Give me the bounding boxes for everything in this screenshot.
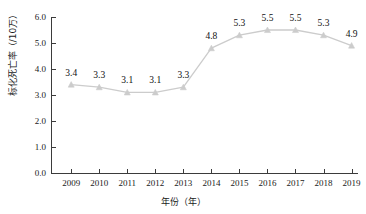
x-tick-mark xyxy=(295,169,296,174)
x-tick-mark xyxy=(352,169,353,174)
y-tick-mark xyxy=(52,121,56,122)
y-tick-label: 1.0 xyxy=(20,143,46,152)
x-axis-title: 年份（年） xyxy=(0,195,366,208)
data-point-marker xyxy=(349,43,355,49)
y-tick-label: 3.0 xyxy=(20,91,46,100)
y-tick-mark xyxy=(52,147,56,148)
y-tick-label: 5.0 xyxy=(20,39,46,48)
x-tick-mark xyxy=(99,169,100,174)
x-tick-mark xyxy=(155,169,156,174)
x-tick-label: 2019 xyxy=(332,178,366,188)
data-point-value-label: 3.3 xyxy=(163,70,203,80)
data-point-marker xyxy=(236,32,242,38)
data-point-marker xyxy=(124,89,130,95)
x-tick-mark xyxy=(71,169,72,174)
x-tick-mark xyxy=(127,169,128,174)
y-tick-mark xyxy=(52,173,56,174)
data-point-value-label: 4.9 xyxy=(332,29,366,39)
y-tick-mark xyxy=(52,95,56,96)
y-tick-mark xyxy=(52,43,56,44)
data-point-marker xyxy=(180,84,186,90)
data-point-marker xyxy=(152,89,158,95)
y-tick-label: 4.0 xyxy=(20,65,46,74)
x-tick-mark xyxy=(239,169,240,174)
data-point-marker xyxy=(292,27,298,33)
data-point-marker xyxy=(68,82,74,88)
x-tick-mark xyxy=(183,169,184,174)
x-axis-line xyxy=(51,173,358,174)
y-tick-label: 6.0 xyxy=(20,13,46,22)
data-point-marker xyxy=(321,32,327,38)
x-tick-mark xyxy=(324,169,325,174)
data-point-marker xyxy=(96,84,102,90)
y-axis-title: 标化死亡率（/10万） xyxy=(6,0,20,113)
data-point-value-label: 4.8 xyxy=(191,31,231,41)
data-point-value-label: 5.3 xyxy=(304,18,344,28)
y-tick-label: 2.0 xyxy=(20,117,46,126)
y-tick-mark xyxy=(52,17,56,18)
x-tick-mark xyxy=(211,169,212,174)
data-point-marker xyxy=(264,27,270,33)
chart-container: 标化死亡率（/10万） 0.01.02.03.04.05.06.0 200920… xyxy=(0,0,366,214)
data-point-marker xyxy=(208,45,214,51)
y-tick-label: 0.0 xyxy=(20,169,46,178)
x-tick-mark xyxy=(267,169,268,174)
